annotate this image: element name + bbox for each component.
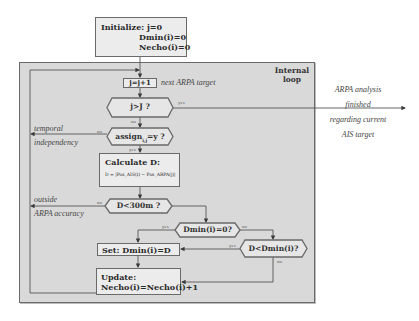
connector-lines (0, 0, 419, 321)
loop-title-line-1: Internal (272, 66, 312, 75)
next-arpa-target-annotation: next ARPA target (161, 78, 215, 88)
decision-dless-label: D<Dmin(i)? (240, 244, 307, 253)
decision-j-yes: yes (178, 100, 185, 106)
exit-line-1: ARPA analysis (318, 82, 398, 97)
exit-annotation: ARPA analysis finished regarding current… (318, 82, 398, 142)
exit-line-4: AIS target (318, 127, 398, 142)
decision-dless-yes: yes (229, 243, 236, 249)
increment-box: j=j+1 (123, 78, 157, 88)
loop-title-line-2: loop (272, 75, 312, 84)
exit-line-3: regarding current (318, 112, 398, 127)
exit-line-2: finished (318, 97, 398, 112)
decision-j-no: no (131, 119, 136, 125)
internal-loop-title: Internal loop (272, 66, 312, 84)
decision-dmin0-yes: yes (162, 224, 169, 230)
decision-j-label: j>J ? (107, 102, 173, 111)
assign-text: assign (115, 132, 142, 141)
init-line-2: Dmin(i)=0 (101, 32, 186, 42)
set-label: Set: Dmin(i)=D (102, 245, 171, 255)
decision-300-no: no (97, 200, 102, 206)
update-line-2: Necho(i)=Necho(i)+1 (101, 282, 180, 292)
init-line-1: Initialize: j=0 (101, 22, 186, 32)
calculate-formula: D = |Pos_AIS(i) − Pos_ARPA(j)| (105, 172, 179, 178)
decision-dmin0-label: Dmin(i)=0? (175, 225, 240, 234)
decision-dmin0-no: no (242, 224, 247, 230)
init-line-3: Necho(i)=0 (101, 42, 186, 52)
outside-line-1: outside (34, 195, 57, 205)
update-box: Update: Necho(i)=Necho(i)+1 (96, 268, 181, 295)
decision-assign-no: no (97, 129, 102, 135)
outside-line-2: ARPA accuracy (34, 209, 84, 219)
calculate-box: Calculate D: D = |Pos_AIS(i) − Pos_ARPA(… (99, 153, 180, 187)
temporal-line-2: independency (34, 138, 78, 148)
update-line-1: Update: (101, 272, 180, 282)
decision-300-label: D<300m ? (105, 201, 172, 210)
decision-dless-no: no (277, 259, 282, 265)
set-box: Set: Dmin(i)=D (97, 243, 180, 256)
flowchart-diagram: Initialize: j=0 Dmin(i)=0 Necho(i)=0 Int… (0, 0, 419, 321)
initialize-box: Initialize: j=0 Dmin(i)=0 Necho(i)=0 (95, 17, 187, 57)
assign-suffix: =y ? (147, 132, 165, 141)
increment-label: j=j+1 (129, 78, 151, 87)
calculate-title: Calculate D: (105, 157, 179, 167)
decision-assign-label: assigni,j=y ? (107, 132, 173, 143)
temporal-line-1: temporal (34, 124, 63, 134)
